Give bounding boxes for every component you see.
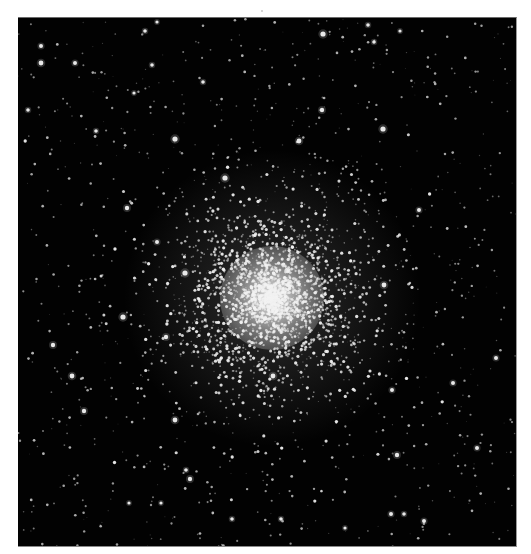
star-field — [18, 18, 517, 547]
dust-speck — [261, 10, 263, 12]
star-cluster-photo — [18, 17, 517, 547]
